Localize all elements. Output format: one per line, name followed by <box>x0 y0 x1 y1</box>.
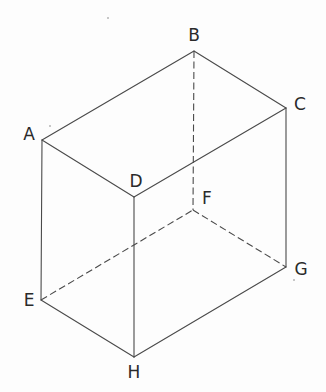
edge-bf <box>193 51 194 210</box>
edge-cd <box>134 108 286 197</box>
edge-eh <box>41 300 134 357</box>
vertex-label-d: D <box>129 173 142 190</box>
scan-speck <box>107 17 109 19</box>
edge-da <box>42 140 134 197</box>
vertex-label-g: G <box>294 261 307 278</box>
edge-ae <box>41 140 42 300</box>
visible-edges <box>41 51 286 357</box>
edge-fg <box>193 210 286 267</box>
scan-speck <box>293 279 295 281</box>
hidden-edges-dashed <box>41 51 286 300</box>
vertex-label-f: F <box>202 190 212 207</box>
vertex-label-h: H <box>128 364 141 381</box>
edge-hg <box>134 267 286 357</box>
edge-bc <box>194 51 286 108</box>
cuboid-diagram: A B C D E F G H <box>0 0 326 392</box>
edge-ab <box>42 51 194 140</box>
vertex-label-b: B <box>188 27 200 44</box>
vertex-label-a: A <box>23 126 35 143</box>
cuboid-edges <box>0 0 326 392</box>
scan-speck <box>49 125 51 127</box>
edge-ef <box>41 210 193 300</box>
vertex-label-e: E <box>24 292 35 309</box>
vertex-label-c: C <box>294 96 306 113</box>
